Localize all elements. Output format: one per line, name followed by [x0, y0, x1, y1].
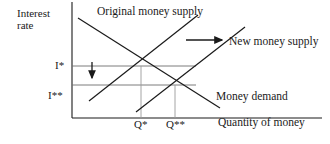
- money-market-diagram: Interest rate Quantity of money Original…: [0, 0, 330, 144]
- x-axis-title: Quantity of money: [218, 116, 305, 128]
- x-tick-label-q-star: Q*: [134, 119, 147, 131]
- y-tick-label-i-star: I*: [55, 60, 64, 72]
- curve-label-original-money-supply: Original money supply: [97, 5, 203, 17]
- y-axis-title: Interest rate: [17, 8, 63, 31]
- curve-label-money-demand: Money demand: [216, 90, 288, 102]
- curve-original-money-supply: [89, 15, 198, 101]
- curve-label-new-money-supply: New money supply: [229, 35, 318, 47]
- x-tick-label-q-star-star: Q**: [166, 119, 185, 131]
- y-tick-label-i-star-star: I**: [48, 90, 63, 102]
